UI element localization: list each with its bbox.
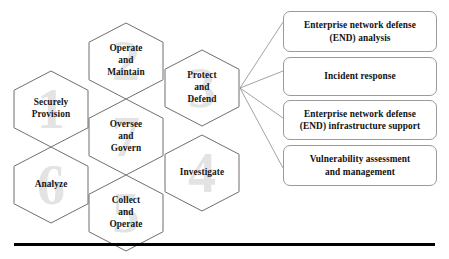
- connector-line-end-infrastructure-support: [240, 88, 283, 118]
- specialty-box-line: Enterprise network defense: [300, 108, 420, 120]
- connector-line-end-analysis: [240, 22, 283, 88]
- hexagon-label-line: Provision: [32, 109, 70, 121]
- specialty-box-line: and management: [310, 166, 410, 178]
- hexagon-label: Analyze: [31, 179, 72, 191]
- hexagon-collect-and-operate[interactable]: 5 Collect and Operate: [88, 174, 164, 252]
- hexagon-label: Collect and Operate: [105, 195, 146, 231]
- hexagon-label: Oversee and Govern: [106, 119, 147, 155]
- hexagon-label-line: Protect: [187, 70, 216, 82]
- hexagon-label-line: and: [107, 55, 144, 67]
- specialty-box-text: Vulnerability assessment and management: [310, 153, 410, 178]
- hexagon-label-line: Defend: [187, 94, 216, 106]
- specialty-box-line: Vulnerability assessment: [310, 153, 410, 165]
- specialty-box-text: Enterprise network defense (END) infrast…: [300, 108, 420, 133]
- hexagon-analyze[interactable]: 6 Analyze: [13, 146, 89, 224]
- specialty-box-line: Incident response: [324, 70, 396, 82]
- specialty-box-incident-response[interactable]: Incident response: [283, 57, 437, 96]
- hexagon-securely-provision[interactable]: 1 Securely Provision: [13, 70, 89, 148]
- hexagon-protect-and-defend[interactable]: 3 Protect and Defend: [164, 49, 240, 127]
- hexagon-label: Investigate: [176, 167, 228, 179]
- hexagon-label-line: Maintain: [107, 67, 144, 79]
- specialty-box-vulnerability-assessment[interactable]: Vulnerability assessment and management: [283, 145, 437, 186]
- hexagon-label: Operate and Maintain: [103, 43, 148, 79]
- hexagon-label-line: and: [109, 207, 142, 219]
- hexagon-investigate[interactable]: 4 Investigate: [164, 134, 240, 212]
- specialty-box-text: Enterprise network defense (END) analysi…: [304, 19, 416, 44]
- hexagon-label-line: Analyze: [35, 179, 68, 191]
- hexagon-label-line: and: [110, 131, 143, 143]
- hexagon-label: Protect and Defend: [183, 70, 220, 106]
- hexagon-label-line: Oversee: [110, 119, 143, 131]
- hexagon-operate-and-maintain[interactable]: 2 Operate and Maintain: [88, 22, 164, 100]
- hexagon-label-line: and: [187, 82, 216, 94]
- hexagon-oversee-and-govern[interactable]: 7 Oversee and Govern: [88, 98, 164, 176]
- hexagon-label-line: Investigate: [180, 167, 224, 179]
- hexagon-label-line: Govern: [110, 143, 143, 155]
- connector-line-incident-response: [240, 71, 283, 88]
- specialty-box-end-analysis[interactable]: Enterprise network defense (END) analysi…: [283, 11, 437, 52]
- connector-line-vulnerability-assessment: [240, 88, 283, 168]
- bottom-divider-rule: [14, 243, 435, 246]
- specialty-box-line: Enterprise network defense: [304, 19, 416, 31]
- diagram-canvas: 1 Securely Provision 6 Analyze 2 Operate…: [0, 0, 449, 259]
- hexagon-label: Securely Provision: [28, 97, 74, 121]
- specialty-box-line: (END) analysis: [304, 32, 416, 44]
- hexagon-label-line: Operate: [107, 43, 144, 55]
- specialty-box-end-infrastructure-support[interactable]: Enterprise network defense (END) infrast…: [283, 100, 437, 140]
- hexagon-label-line: Securely: [32, 97, 70, 109]
- hexagon-label-line: Collect: [109, 195, 142, 207]
- hexagon-label-line: Operate: [109, 219, 142, 231]
- specialty-box-line: (END) infrastructure support: [300, 120, 420, 132]
- specialty-box-text: Incident response: [324, 70, 396, 82]
